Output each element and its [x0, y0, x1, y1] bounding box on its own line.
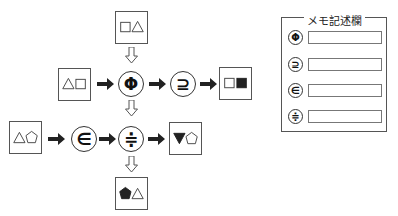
shapes-black-inverted-triangle-pentagon-icon — [170, 123, 201, 154]
memo-input-phi[interactable] — [308, 31, 382, 44]
solid-right-arrow-icon — [97, 78, 115, 90]
operator-approx-equal: ≑ — [118, 126, 144, 152]
hollow-down-arrow-icon — [125, 47, 138, 64]
shapes-triangle-square-icon — [59, 69, 90, 100]
box-right-mid — [219, 67, 252, 100]
solid-right-arrow-icon — [148, 133, 166, 145]
shapes-square-triangle-icon — [116, 12, 147, 43]
memo-symbol-phi: Φ — [288, 30, 303, 45]
memo-row-phi: Φ — [288, 31, 384, 45]
memo-symbol-element-of: ∈ — [288, 83, 303, 98]
shapes-black-pentagon-triangle-icon — [116, 178, 147, 209]
hollow-down-arrow-icon — [125, 156, 138, 173]
solid-right-arrow-icon — [149, 78, 167, 90]
operator-element-of: ∈ — [71, 126, 97, 152]
box-top — [115, 11, 148, 44]
shapes-white-black-square-icon — [220, 68, 251, 99]
box-left-bottom — [9, 121, 42, 154]
memo-symbol-superset-eq: ⊇ — [288, 57, 303, 72]
box-right-bottom — [169, 122, 202, 155]
memo-panel: メモ記述欄 Φ ⊇ ∈ ≑ — [281, 17, 387, 132]
operator-phi: Φ — [118, 71, 144, 97]
memo-input-element-of[interactable] — [308, 84, 382, 97]
solid-right-arrow-icon — [99, 133, 117, 145]
memo-input-superset-eq[interactable] — [308, 58, 382, 71]
memo-symbol-approx-equal: ≑ — [288, 109, 303, 124]
operator-superset-eq: ⊇ — [170, 71, 196, 97]
memo-row-approx-equal: ≑ — [288, 110, 384, 124]
box-left-mid — [58, 68, 91, 101]
solid-right-arrow-icon — [200, 78, 218, 90]
box-bottom — [115, 177, 148, 210]
shapes-triangle-pentagon-icon — [10, 122, 41, 153]
memo-title: メモ記述欄 — [282, 10, 386, 29]
memo-input-approx-equal[interactable] — [308, 110, 382, 123]
memo-row-superset-eq: ⊇ — [288, 58, 384, 72]
hollow-down-arrow-icon — [125, 100, 138, 117]
memo-row-element-of: ∈ — [288, 84, 384, 98]
solid-right-arrow-icon — [48, 133, 66, 145]
